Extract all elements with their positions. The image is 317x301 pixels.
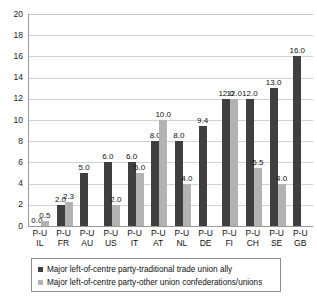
bar-value-label: 4.0	[181, 175, 192, 183]
bar-value-label: 6.0	[126, 153, 137, 161]
y-tick-label: 8	[18, 137, 23, 146]
bar-value-label: 12.0	[226, 90, 242, 98]
y-tick-label: 20	[14, 10, 23, 19]
x-tick-line1: P-U	[75, 228, 99, 238]
bar-group: 8.010.0	[147, 14, 171, 226]
bar-traditional-ally: 9.4	[199, 126, 207, 226]
bar-group: 5.0	[76, 14, 100, 226]
legend-item-label: Major left-of-centre party-other union c…	[47, 278, 262, 287]
x-tick-line1: P-U	[265, 228, 289, 238]
bar-other-unions: 12.0	[230, 99, 238, 226]
x-tick-line2: US	[99, 238, 123, 248]
x-tick-label: P-UNL	[170, 228, 194, 252]
x-tick-label: P-UIL	[28, 228, 52, 252]
y-tick-label: 4	[18, 179, 23, 188]
bar-group: 12.05.5	[242, 14, 266, 226]
legend-swatch-icon	[38, 267, 43, 272]
bar-value-label: 6.0	[102, 153, 113, 161]
y-axis: 20181614121086420	[0, 14, 26, 226]
x-tick-line1: P-U	[217, 228, 241, 238]
bar-other-unions: 5.0	[136, 173, 144, 226]
bar-traditional-ally: 8.0	[151, 141, 159, 226]
bar-value-label: 9.4	[197, 117, 208, 125]
y-tick-label: 6	[18, 158, 23, 167]
bar-other-unions: 5.5	[254, 168, 262, 226]
x-tick-line2: IT	[123, 238, 147, 248]
plot-area: 0.00.52.02.35.06.02.06.05.08.010.08.04.0…	[28, 14, 313, 227]
x-axis: P-UILP-UFRP-UAUP-UUSP-UITP-UATP-UNLP-UDE…	[28, 228, 312, 252]
x-tick-line1: P-U	[194, 228, 218, 238]
x-tick-label: P-UUS	[99, 228, 123, 252]
x-tick-line1: P-U	[52, 228, 76, 238]
bar-group: 6.05.0	[124, 14, 148, 226]
bar-traditional-ally: 12.0	[222, 99, 230, 226]
bar-other-unions: 4.0	[278, 184, 286, 226]
bar-other-unions: 4.0	[183, 184, 191, 226]
bar-value-label: 5.0	[79, 164, 90, 172]
bar-value-label: 5.0	[134, 164, 145, 172]
x-tick-line2: CH	[241, 238, 265, 248]
bar-traditional-ally: 5.0	[80, 173, 88, 226]
bar-value-label: 4.0	[276, 175, 287, 183]
x-tick-line2: FI	[217, 238, 241, 248]
x-tick-line1: P-U	[146, 228, 170, 238]
x-tick-label: P-UAU	[75, 228, 99, 252]
bar-traditional-ally: 8.0	[175, 141, 183, 226]
bars-layer: 0.00.52.02.35.06.02.06.05.08.010.08.04.0…	[29, 14, 313, 226]
x-tick-line1: P-U	[123, 228, 147, 238]
bar-other-unions: 2.3	[65, 202, 73, 226]
x-tick-label: P-UDE	[194, 228, 218, 252]
y-tick-label: 12	[14, 94, 23, 103]
x-tick-label: P-USE	[265, 228, 289, 252]
x-tick-line1: P-U	[99, 228, 123, 238]
legend-item-label: Major left-of-centre party-traditional t…	[47, 265, 232, 274]
bar-chart: 20181614121086420 0.00.52.02.35.06.02.06…	[0, 0, 317, 301]
x-tick-line2: IL	[28, 238, 52, 248]
x-tick-label: P-UAT	[146, 228, 170, 252]
bar-other-unions: 0.5	[41, 221, 49, 226]
bar-value-label: 2.3	[63, 193, 74, 201]
x-tick-line1: P-U	[28, 228, 52, 238]
bar-group: 0.00.5	[29, 14, 53, 226]
bar-group: 16.0	[289, 14, 313, 226]
y-tick-label: 18	[14, 31, 23, 40]
bar-traditional-ally: 16.0	[293, 56, 301, 226]
x-tick-line1: P-U	[170, 228, 194, 238]
bar-group: 8.04.0	[171, 14, 195, 226]
plot-block: 20181614121086420 0.00.52.02.35.06.02.06…	[0, 14, 317, 250]
bar-group: 6.02.0	[100, 14, 124, 226]
x-tick-line2: NL	[170, 238, 194, 248]
x-tick-line2: SE	[265, 238, 289, 248]
bar-group: 2.02.3	[53, 14, 77, 226]
x-tick-label: P-UIT	[123, 228, 147, 252]
bar-value-label: 13.0	[266, 79, 282, 87]
y-tick-label: 0	[18, 222, 23, 231]
legend-swatch-icon	[38, 280, 43, 285]
y-tick-label: 10	[14, 116, 23, 125]
x-tick-line2: AU	[75, 238, 99, 248]
bar-value-label: 12.0	[242, 90, 258, 98]
chart-legend: Major left-of-centre party-traditional t…	[31, 258, 281, 292]
y-tick-label: 14	[14, 73, 23, 82]
bar-traditional-ally: 2.0	[57, 205, 65, 226]
bar-value-label: 8.0	[173, 132, 184, 140]
legend-item-other-unions: Major left-of-centre party-other union c…	[38, 276, 275, 288]
x-tick-label: P-UCH	[241, 228, 265, 252]
bar-group: 9.4	[195, 14, 219, 226]
bar-other-unions: 10.0	[159, 120, 167, 226]
legend-item-traditional-ally: Major left-of-centre party-traditional t…	[38, 263, 275, 275]
x-tick-label: P-UGB	[288, 228, 312, 252]
bar-group: 13.04.0	[266, 14, 290, 226]
y-tick-label: 16	[14, 52, 23, 61]
x-tick-line1: P-U	[288, 228, 312, 238]
x-tick-line2: AT	[146, 238, 170, 248]
bar-value-label: 16.0	[289, 47, 305, 55]
bar-value-label: 0.5	[39, 212, 50, 220]
x-tick-line1: P-U	[241, 228, 265, 238]
bar-group: 12.012.0	[218, 14, 242, 226]
x-tick-label: P-UFI	[217, 228, 241, 252]
y-tick-label: 2	[18, 200, 23, 209]
x-tick-line2: GB	[288, 238, 312, 248]
x-tick-line2: FR	[52, 238, 76, 248]
bar-value-label: 2.0	[110, 196, 121, 204]
